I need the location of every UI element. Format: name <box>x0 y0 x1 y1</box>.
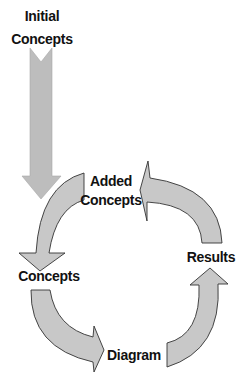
label-initial-line1: Initial <box>5 5 79 28</box>
arrow-concepts-to-diagram <box>31 290 104 372</box>
arrow-added-to-concepts <box>19 173 84 271</box>
initial-input-arrow <box>22 48 61 199</box>
label-added-concepts: Added Concepts <box>78 172 144 210</box>
label-concepts: Concepts <box>18 265 80 288</box>
label-diagram: Diagram <box>106 344 162 367</box>
label-results: Results <box>186 246 236 269</box>
label-added-line2: Concepts <box>78 191 144 210</box>
arrow-results-to-added <box>140 161 222 243</box>
label-initial-line2: Concepts <box>5 28 79 51</box>
arrow-diagram-to-results <box>167 268 228 367</box>
label-initial-concepts: Initial Concepts <box>5 5 79 51</box>
label-added-line1: Added <box>78 172 144 191</box>
